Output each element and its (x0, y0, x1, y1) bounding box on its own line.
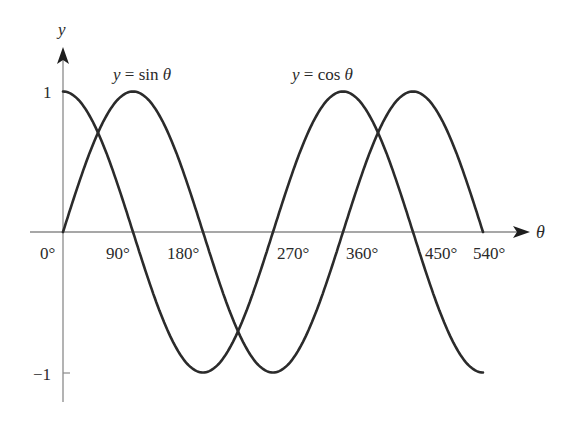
sin-curve-label: y = sin θ (111, 65, 171, 84)
x-tick-label-180: 180° (167, 244, 199, 263)
x-tick-label-540: 540° (473, 244, 505, 263)
x-tick-label-90: 90° (106, 244, 130, 263)
y-tick-label-neg1: −1 (33, 365, 51, 384)
trig-chart: y θ y = sin θ y = cos θ 1 −1 0° 90° 180°… (0, 0, 571, 422)
y-axis-label: y (56, 20, 66, 39)
x-tick-label-0: 0° (40, 244, 55, 263)
x-axis-label: θ (536, 222, 545, 242)
y-tick-label-1: 1 (43, 83, 52, 102)
x-tick-label-270: 270° (277, 244, 309, 263)
axes (30, 47, 530, 402)
x-tick-label-450: 450° (425, 244, 457, 263)
cos-curve-label: y = cos θ (290, 65, 353, 84)
x-tick-label-360: 360° (346, 244, 378, 263)
